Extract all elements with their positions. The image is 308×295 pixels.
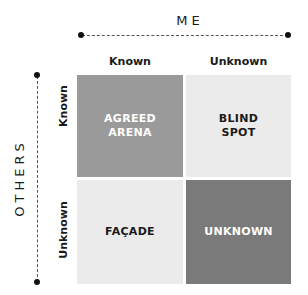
quadrant-label: UNKNOWN <box>204 225 273 239</box>
me-axis-start-dot <box>78 32 84 38</box>
quadrant-facade: FAÇADE <box>77 180 183 284</box>
row-label-unknown: Unknown <box>57 201 70 258</box>
quadrant-blind-spot: BLIND SPOT <box>186 75 291 177</box>
others-axis-title: OTHERS <box>12 139 27 216</box>
quadrant-unknown: UNKNOWN <box>186 180 291 284</box>
quadrant-label: FAÇADE <box>105 225 155 239</box>
column-label-unknown: Unknown <box>186 55 291 68</box>
others-axis-end-dot <box>34 279 40 285</box>
me-axis-line <box>82 35 288 36</box>
quadrant-agreed-arena: AGREED ARENA <box>77 75 183 177</box>
others-axis-line <box>37 76 38 282</box>
quadrant-label: AGREED ARENA <box>104 112 156 140</box>
others-axis-start-dot <box>34 72 40 78</box>
me-axis-end-dot <box>285 32 291 38</box>
row-label-known: Known <box>57 85 70 127</box>
column-label-known: Known <box>77 55 183 68</box>
me-axis-title: ME <box>150 13 230 28</box>
quadrant-label: BLIND SPOT <box>219 112 258 140</box>
